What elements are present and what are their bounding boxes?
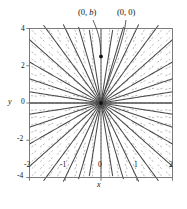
data-point-1 bbox=[99, 101, 103, 105]
x-axis-title: x bbox=[97, 181, 101, 189]
y-tick-label-1: 2 bbox=[21, 62, 25, 70]
x-tick-label-4: 2 bbox=[169, 161, 173, 169]
y-tick-label-2: 0 bbox=[21, 98, 25, 106]
x-tick-label-2: 0 bbox=[98, 161, 102, 169]
plot-canvas bbox=[0, 0, 187, 209]
x-tick-label-1: -1 bbox=[60, 161, 66, 169]
x-tick-label-3: 1 bbox=[134, 161, 138, 169]
annotation-label-origin: (0, 0) bbox=[117, 8, 135, 17]
data-point-0 bbox=[99, 55, 103, 59]
y-tick-label-0: 4 bbox=[21, 25, 25, 33]
y-axis-title: y bbox=[8, 98, 12, 106]
x-tick-label-0: -2 bbox=[24, 161, 30, 169]
annotation-b-pre: (0, bbox=[78, 7, 89, 17]
direction-field-figure: (0, b) (0, 0) -2 -1 0 1 2 4 2 0 -2 -4 x … bbox=[0, 0, 187, 209]
y-tick-label-4: -4 bbox=[17, 172, 23, 180]
annotation-b-post: ) bbox=[94, 7, 97, 17]
annotation-label-point-b: (0, b) bbox=[78, 8, 96, 17]
y-tick-label-3: -2 bbox=[17, 135, 23, 143]
